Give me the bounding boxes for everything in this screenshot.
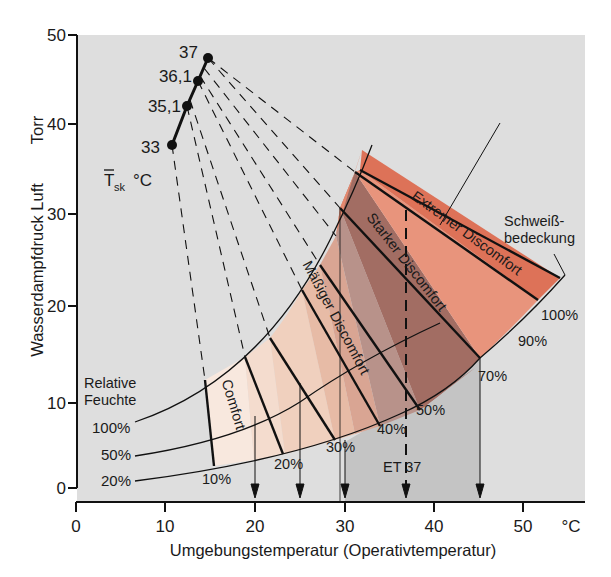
y-tick-0: 0 (57, 479, 66, 498)
wettedness-title-2: bedeckung (504, 230, 575, 246)
wet-label-10: 10% (202, 471, 231, 487)
x-axis-title: Umgebungstemperatur (Operativtemperatur) (170, 541, 496, 559)
y-axis-unit: Torr (28, 115, 46, 144)
comfort-chart: 50 40 30 20 10 0 0 10 20 30 40 50 °C Umg… (0, 0, 611, 577)
wet-label-90: 90% (518, 333, 547, 349)
y-axis-title: Wasserdampfdruck Luft (28, 183, 46, 357)
y-tick-40: 40 (47, 115, 66, 134)
tsk-point-36-1 (193, 76, 203, 86)
wet-label-30: 30% (326, 439, 355, 455)
tsk-point-33 (167, 140, 177, 150)
wet-label-20: 20% (274, 456, 303, 472)
wettedness-title-1: Schweiß- (504, 213, 565, 229)
y-tick-30: 30 (47, 205, 66, 224)
tsk-point-35-1 (182, 101, 192, 111)
tsk-label-sub: sk (114, 181, 126, 193)
rh-label-50: 50% (101, 446, 131, 463)
tsk-label-unit: °C (133, 171, 152, 190)
y-tick-10: 10 (47, 394, 66, 413)
rh-label-20: 20% (101, 472, 131, 489)
x-tick-20: 20 (246, 517, 265, 536)
y-tick-20: 20 (47, 297, 66, 316)
x-unit: °C (561, 517, 580, 536)
tsk-label-33: 33 (141, 138, 160, 157)
tsk-label-36-1: 36,1 (159, 67, 192, 86)
x-tick-40: 40 (425, 517, 444, 536)
wet-label-40: 40% (377, 421, 406, 437)
y-tick-labels: 50 40 30 20 10 0 (47, 26, 66, 498)
rh-title-1: Relative (84, 375, 136, 391)
wet-label-100: 100% (541, 307, 578, 323)
x-tick-50: 50 (514, 517, 533, 536)
wet-label-70: 70% (478, 368, 507, 384)
rh-label-100: 100% (92, 419, 130, 436)
rh-title-2: Feuchte (84, 392, 136, 408)
x-tick-labels: 0 10 20 30 40 50 °C (71, 517, 580, 536)
wet-label-50: 50% (416, 402, 445, 418)
x-tick-30: 30 (336, 517, 355, 536)
tsk-point-37 (203, 53, 213, 63)
tsk-label-T: T (104, 171, 114, 190)
x-tick-0: 0 (71, 517, 80, 536)
tsk-label-37: 37 (179, 43, 198, 62)
et-label: ET 37 (383, 459, 421, 475)
x-tick-10: 10 (156, 517, 175, 536)
tsk-label-35-1: 35,1 (148, 97, 181, 116)
y-tick-50: 50 (47, 26, 66, 45)
